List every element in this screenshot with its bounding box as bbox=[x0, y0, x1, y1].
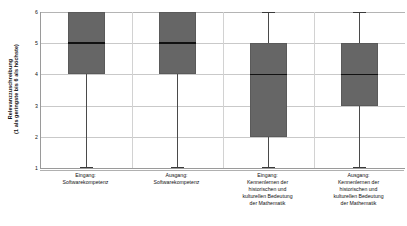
y-tick-6: 6 bbox=[28, 9, 38, 15]
x-category-2-line-2: Softwarekompetenz bbox=[131, 179, 222, 186]
x-category-2-line-1: Ausgang: bbox=[131, 172, 222, 179]
median-line bbox=[68, 42, 105, 44]
boxplot-chart: Relevanzzuschreibung (1 als geringste bi… bbox=[0, 0, 407, 226]
x-category-3-line-1: Eingang: bbox=[222, 172, 313, 179]
upper-whisker-line bbox=[359, 12, 360, 43]
x-category-label-2: Ausgang: Softwarekompetenz bbox=[131, 172, 222, 186]
lower-whisker-line bbox=[268, 137, 269, 168]
y-axis-tick-labels: 6 5 4 3 2 1 bbox=[26, 0, 38, 226]
x-category-1-line-1: Eingang: bbox=[40, 172, 131, 179]
category-separator-1 bbox=[132, 12, 133, 168]
y-axis-label-line2: (1 als geringste bis 6 als höchste) bbox=[13, 44, 19, 134]
plot-area bbox=[40, 12, 405, 169]
boxplot-eingang-softwarekompetenz bbox=[68, 12, 105, 168]
category-separator-2 bbox=[223, 12, 224, 168]
lower-whisker-line bbox=[177, 74, 178, 168]
lower-whisker-cap bbox=[80, 167, 93, 168]
x-category-3-line-2: Kennenlernen der bbox=[222, 179, 313, 186]
box-iqr bbox=[250, 43, 287, 137]
lower-whisker-cap bbox=[262, 167, 275, 168]
boxplot-ausgang-historisch-kulturell bbox=[341, 12, 378, 168]
x-category-label-1: Eingang: Softwarekompetenz bbox=[40, 172, 131, 186]
median-line bbox=[341, 74, 378, 76]
boxplot-eingang-historisch-kulturell bbox=[250, 12, 287, 168]
median-line bbox=[159, 42, 196, 44]
x-category-label-3: Eingang: Kennenlernen der historischen u… bbox=[222, 172, 313, 207]
lower-whisker-cap bbox=[171, 167, 184, 168]
upper-whisker-cap bbox=[353, 12, 366, 13]
x-category-label-4: Ausgang: Kennenlernen der historischen u… bbox=[313, 172, 404, 207]
x-category-4-line-5: der Mathematik bbox=[313, 200, 404, 207]
x-category-3-line-5: der Mathematik bbox=[222, 200, 313, 207]
lower-whisker-cap bbox=[353, 167, 366, 168]
upper-whisker-line bbox=[268, 12, 269, 43]
upper-whisker-cap bbox=[262, 12, 275, 13]
lower-whisker-line bbox=[86, 74, 87, 168]
y-tick-2: 2 bbox=[28, 134, 38, 140]
x-axis-category-labels: Eingang: Softwarekompetenz Ausgang: Soft… bbox=[40, 172, 404, 226]
median-line bbox=[250, 74, 287, 76]
boxplot-ausgang-softwarekompetenz bbox=[159, 12, 196, 168]
x-category-4-line-1: Ausgang: bbox=[313, 172, 404, 179]
lower-whisker-line bbox=[359, 106, 360, 168]
y-tick-4: 4 bbox=[28, 71, 38, 77]
y-axis-label: Relevanzzuschreibung (1 als geringste bi… bbox=[0, 8, 26, 170]
y-tick-5: 5 bbox=[28, 40, 38, 46]
x-category-3-line-3: historischen und bbox=[222, 186, 313, 193]
x-category-4-line-2: Kennenlernen der bbox=[313, 179, 404, 186]
x-category-4-line-4: kulturellen Bedeutung bbox=[313, 193, 404, 200]
y-tick-1: 1 bbox=[28, 165, 38, 171]
x-category-1-line-2: Softwarekompetenz bbox=[40, 179, 131, 186]
x-category-4-line-3: historischen und bbox=[313, 186, 404, 193]
category-separator-3 bbox=[314, 12, 315, 168]
y-tick-3: 3 bbox=[28, 103, 38, 109]
x-axis-baseline bbox=[40, 170, 404, 171]
x-category-3-line-4: kulturellen Bedeutung bbox=[222, 193, 313, 200]
